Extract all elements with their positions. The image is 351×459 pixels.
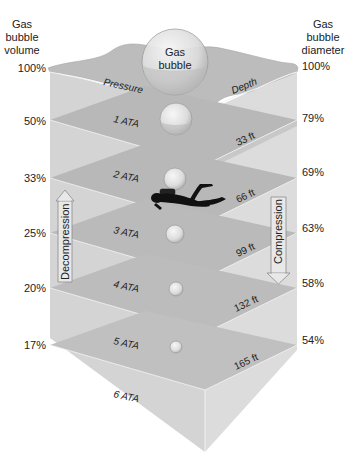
svg-text:bubble: bubble xyxy=(5,31,38,43)
svg-text:Gas: Gas xyxy=(313,18,334,30)
right-column-header: Gas bubble diameter xyxy=(302,18,345,56)
bubble-4-ata xyxy=(169,282,183,296)
bubble-3-ata xyxy=(166,225,184,243)
diameter-labels: 100% 79% 69% 63% 58% 54% xyxy=(302,60,330,346)
svg-text:79%: 79% xyxy=(302,112,324,124)
svg-text:69%: 69% xyxy=(302,166,324,178)
svg-text:100%: 100% xyxy=(302,60,330,72)
svg-text:58%: 58% xyxy=(302,277,324,289)
bubble-label-line2: bubble xyxy=(158,59,191,71)
svg-text:bubble: bubble xyxy=(306,31,339,43)
bubble-label-line1: Gas xyxy=(165,46,186,58)
svg-text:20%: 20% xyxy=(24,282,46,294)
svg-text:50%: 50% xyxy=(24,115,46,127)
bubble-2-ata xyxy=(164,168,186,190)
svg-text:63%: 63% xyxy=(302,222,324,234)
left-column-header: Gas bubble volume xyxy=(4,18,39,56)
svg-text:Gas: Gas xyxy=(12,18,33,30)
svg-text:33%: 33% xyxy=(24,172,46,184)
svg-text:17%: 17% xyxy=(24,339,46,351)
svg-text:Decompression: Decompression xyxy=(59,204,71,280)
volume-labels: 100% 50% 33% 25% 20% 17% xyxy=(18,62,46,351)
svg-text:100%: 100% xyxy=(18,62,46,74)
svg-text:25%: 25% xyxy=(24,227,46,239)
decompression-arrow-icon: Decompression xyxy=(56,190,74,282)
svg-text:diameter: diameter xyxy=(302,44,345,56)
svg-text:Compression: Compression xyxy=(272,199,284,264)
svg-text:volume: volume xyxy=(4,44,39,56)
bubble-5-ata xyxy=(170,341,182,353)
svg-text:54%: 54% xyxy=(302,334,324,346)
diving-pressure-diagram: Gas bubble volume Gas bubble diameter 10… xyxy=(0,0,351,459)
